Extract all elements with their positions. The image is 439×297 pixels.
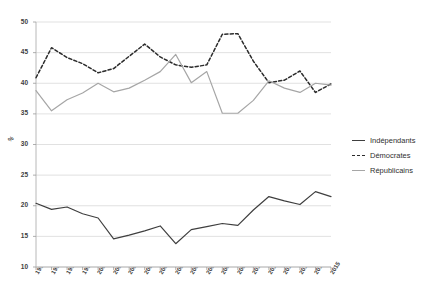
legend-item-label: Indépendants bbox=[370, 136, 415, 145]
legend-item-ind-pendants[interactable]: Indépendants bbox=[352, 133, 438, 148]
legend-item-label: Démocrates bbox=[370, 151, 410, 160]
line-chart: % 101520253035404550 1996199719981999200… bbox=[0, 0, 439, 297]
legend-swatch-icon bbox=[352, 137, 365, 145]
legend-item-r-publicains[interactable]: Républicains bbox=[352, 163, 438, 178]
legend-item-label: Républicains bbox=[370, 166, 413, 175]
legend-swatch-icon bbox=[352, 167, 365, 175]
legend-swatch-icon bbox=[352, 152, 365, 160]
chart-legend: IndépendantsDémocratesRépublicains bbox=[352, 133, 438, 178]
legend-item-d-mocrates[interactable]: Démocrates bbox=[352, 148, 438, 163]
